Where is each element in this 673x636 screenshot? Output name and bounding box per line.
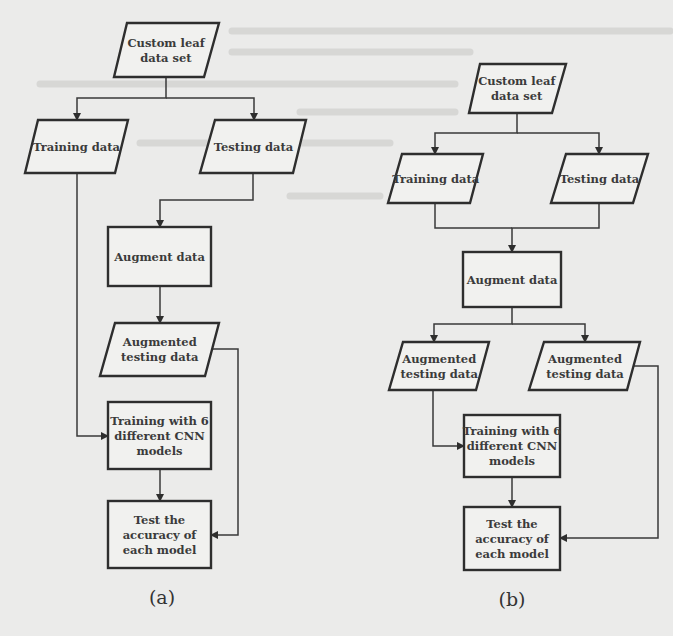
node-a-train-cnn: Training with 6different CNNmodels: [108, 402, 211, 469]
node-label: Augmented: [122, 335, 197, 349]
node-label: each model: [123, 543, 197, 557]
connector-b-dataset-to-training: [435, 113, 517, 154]
node-label: Augment data: [466, 273, 558, 287]
node-label: Training data: [33, 140, 121, 154]
node-b-train-cnn: Training with 6different CNNmodels: [463, 415, 562, 477]
node-label: Test the: [486, 517, 537, 531]
connector-b-training-to-augment: [435, 203, 512, 228]
subfigure-caption-b: (b): [499, 588, 526, 610]
node-a-dataset: Custom leafdata set: [114, 23, 219, 77]
node-label: data set: [491, 89, 543, 103]
node-label: different CNN: [467, 439, 558, 453]
connector-b-augment-to-aug-testing-left: [434, 307, 512, 342]
node-label: Augmented: [401, 352, 476, 366]
node-label: testing data: [121, 350, 199, 364]
node-label: testing data: [401, 367, 479, 381]
node-b-training: Training data: [388, 154, 483, 203]
connector-a-testing-to-augment: [160, 173, 253, 227]
node-a-testing: Testing data: [200, 120, 306, 173]
connector-a-dataset-to-training: [77, 77, 166, 120]
connector-a-training-to-train-cnn: [77, 173, 108, 436]
node-label: accuracy of: [475, 532, 550, 546]
node-label: different CNN: [114, 429, 205, 443]
node-layer: Custom leafdata setTraining dataTesting …: [25, 23, 648, 570]
node-label: Custom leaf: [127, 36, 205, 50]
connector-a-dataset-to-testing: [166, 98, 254, 120]
node-label: each model: [475, 547, 549, 561]
caption-layer: (a)(b): [149, 586, 526, 610]
node-b-aug-testing-left: Augmentedtesting data: [389, 342, 489, 390]
figure-canvas: Custom leafdata setTraining dataTesting …: [0, 0, 673, 636]
node-label: data set: [140, 51, 192, 65]
connector-b-testing-to-augment: [512, 203, 599, 252]
connector-a-aug-testing-to-test-accuracy: [211, 349, 238, 535]
node-label: Testing data: [214, 140, 294, 154]
subfigure-caption-a: (a): [149, 586, 175, 608]
node-label: models: [489, 454, 535, 468]
node-a-augment: Augment data: [108, 227, 211, 286]
node-b-testing: Testing data: [551, 154, 648, 203]
node-label: Augment data: [113, 250, 205, 264]
connector-b-dataset-to-testing: [517, 133, 599, 154]
node-a-training: Training data: [25, 120, 128, 173]
connector-b-augment-to-aug-testing-right: [512, 324, 585, 342]
node-label: testing data: [546, 367, 624, 381]
node-b-test-accuracy: Test theaccuracy ofeach model: [464, 507, 560, 570]
node-label: Training with 6: [463, 424, 562, 438]
node-label: models: [136, 444, 182, 458]
node-label: Training with 6: [110, 414, 209, 428]
node-b-augment: Augment data: [463, 252, 561, 307]
node-b-aug-testing-right: Augmentedtesting data: [529, 342, 640, 390]
connector-b-aug-testing-left-to-train-cnn: [433, 390, 464, 446]
node-a-test-accuracy: Test theaccuracy ofeach model: [108, 501, 211, 568]
node-label: Augmented: [547, 352, 622, 366]
node-b-dataset: Custom leafdata set: [469, 64, 566, 113]
node-a-aug-testing: Augmentedtesting data: [100, 323, 219, 376]
flowchart-figure: Custom leafdata setTraining dataTesting …: [0, 0, 673, 636]
node-label: Training data: [392, 172, 480, 186]
node-label: Custom leaf: [478, 74, 556, 88]
node-label: accuracy of: [123, 528, 198, 542]
connector-b-aug-testing-right-to-test-accuracy: [560, 366, 658, 538]
node-label: Testing data: [560, 172, 640, 186]
node-label: Test the: [134, 513, 185, 527]
